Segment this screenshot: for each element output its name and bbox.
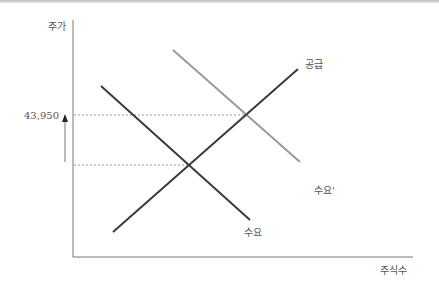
price-tick-label: 43,950 xyxy=(24,110,59,121)
supply-demand-chart: 주가 주식수 43,950 공급 수요' 수요 xyxy=(0,0,439,290)
demand-shifted-line xyxy=(173,50,300,162)
y-axis-label: 주가 xyxy=(48,21,66,32)
arrow-head-icon xyxy=(62,114,68,122)
demand-shifted-label: 수요' xyxy=(314,185,335,196)
supply-line xyxy=(113,69,298,232)
supply-label: 공급 xyxy=(305,59,323,70)
demand-label: 수요 xyxy=(244,227,262,238)
x-axis-label: 주식수 xyxy=(380,265,407,276)
demand-line xyxy=(101,86,250,220)
